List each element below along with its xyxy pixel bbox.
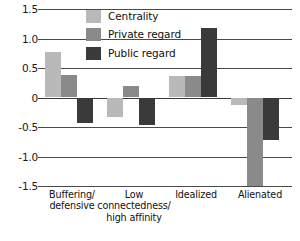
x-axis-labels: Buffering/ defensive Low connectedness/ … bbox=[38, 189, 292, 241]
legend-swatch-icon bbox=[86, 10, 101, 23]
x-label-alienated: Alienated bbox=[222, 189, 298, 200]
bar-private-regard bbox=[123, 86, 139, 97]
bar-public-regard bbox=[77, 98, 93, 123]
bar-private-regard bbox=[185, 76, 201, 97]
legend-item-private-regard: Private regard bbox=[86, 27, 181, 43]
gridline-neg1.5 bbox=[38, 186, 292, 187]
legend-swatch-icon bbox=[86, 47, 101, 60]
bar-public-regard bbox=[139, 98, 155, 126]
legend-item-public-regard: Public regard bbox=[86, 45, 181, 61]
legend-label: Centrality bbox=[108, 11, 158, 22]
x-label-line: connectedness/ bbox=[94, 200, 174, 211]
y-tick-label: 1.5 bbox=[4, 4, 38, 14]
x-label-line: Alienated bbox=[222, 189, 298, 200]
legend-label: Private regard bbox=[108, 29, 181, 40]
y-tick-label: -1.0 bbox=[4, 152, 38, 162]
bar-centrality bbox=[107, 98, 123, 118]
legend-swatch-icon bbox=[86, 28, 101, 41]
bar-group-alienated bbox=[230, 9, 286, 186]
legend-item-centrality: Centrality bbox=[86, 8, 181, 24]
y-tick-label: -0.5 bbox=[4, 122, 38, 132]
y-tick-label: 1.0 bbox=[4, 34, 38, 44]
bar-centrality bbox=[231, 98, 247, 106]
bar-public-regard bbox=[263, 98, 279, 141]
bar-public-regard bbox=[201, 28, 217, 98]
y-tick-label: 0.5 bbox=[4, 63, 38, 73]
bar-private-regard bbox=[61, 75, 77, 98]
bar-centrality bbox=[45, 52, 61, 97]
bar-centrality bbox=[169, 76, 185, 98]
bar-chart: 1.5 1.0 0.5 0 -0.5 -1.0 -1.5 bbox=[0, 0, 300, 241]
chart-legend: Centrality Private regard Public regard bbox=[86, 8, 181, 64]
x-label-line: high affinity bbox=[94, 212, 174, 223]
y-tick-label: 0 bbox=[4, 93, 38, 103]
bar-private-regard bbox=[247, 98, 263, 187]
legend-label: Public regard bbox=[108, 48, 176, 59]
